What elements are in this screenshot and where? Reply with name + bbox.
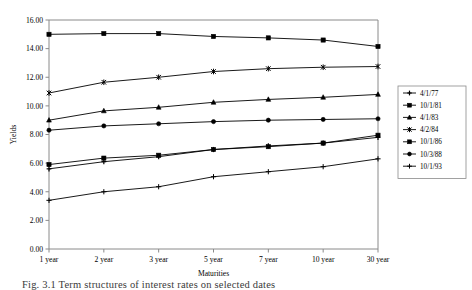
chart-figure: 0.002.004.006.008.0010.0012.0014.0016.00… [0,0,472,290]
chart-legend: 4/1/7710/1/814/1/834/2/8410/1/8610/3/881… [398,86,466,178]
plot-frame [49,20,378,249]
series-line [47,133,380,167]
y-tick-label: 6.00 [30,159,43,168]
y-tick-label: 14.00 [26,44,43,53]
x-tick-label: 2 year [94,255,113,264]
x-tick-label: 5 year [204,255,223,264]
legend-item-label: 10/3/88 [420,151,442,159]
series-line [47,92,381,122]
yield-curve-chart: 0.002.004.006.008.0010.0012.0014.0016.00… [0,0,472,290]
series-line [47,64,381,96]
x-tick-label: 30 year [367,255,390,264]
y-axis-title: Yields [9,125,18,144]
legend-item-label: 10/1/93 [420,163,442,171]
x-axis-title: Maturities [198,269,229,278]
y-tick-label: 2.00 [30,216,43,225]
x-tick-label: 7 year [259,255,278,264]
y-tick-label: 0.00 [30,245,43,254]
x-axis: 1 year2 year3 year5 year7 year10 year30 … [40,249,390,264]
figure-caption: Fig. 3.1 Term structures of interest rat… [22,279,275,290]
y-tick-label: 4.00 [30,188,43,197]
y-tick-label: 8.00 [30,130,43,139]
y-tick-label: 12.00 [26,73,43,82]
x-tick-label: 1 year [40,255,59,264]
y-tick-label: 16.00 [26,16,43,25]
legend-item-label: 4/1/83 [420,114,439,122]
x-tick-label: 10 year [312,255,335,264]
series-line [46,156,380,203]
series-line [47,117,380,133]
legend-item-label: 4/2/84 [420,126,439,134]
x-tick-label: 3 year [149,255,168,264]
legend-item-label: 10/1/81 [420,102,442,110]
legend-item-label: 4/1/77 [420,90,439,98]
y-tick-label: 10.00 [26,102,43,111]
legend-item-label: 10/1/86 [420,138,442,146]
y-axis: 0.002.004.006.008.0010.0012.0014.0016.00 [26,16,49,254]
series-line [47,31,380,48]
